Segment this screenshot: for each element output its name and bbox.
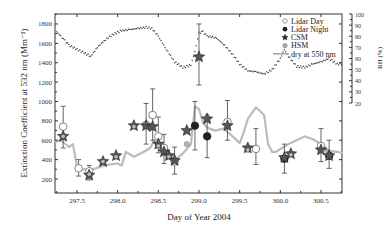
- lidar-day-marker: [149, 111, 157, 119]
- rh-point: [67, 42, 68, 43]
- rh-point: [295, 63, 296, 64]
- x-tick-label: 300.5: [313, 197, 329, 205]
- rh-point: [326, 59, 327, 60]
- rh-point: [106, 37, 107, 38]
- rh-point: [74, 47, 75, 48]
- hsm-dot: [114, 155, 118, 159]
- y-tick-label: 1400: [38, 59, 53, 67]
- rh-point: [94, 51, 95, 52]
- rh-point: [238, 61, 239, 62]
- rh-point: [208, 36, 209, 37]
- rh-point: [75, 49, 76, 50]
- rh-point: [183, 66, 184, 67]
- rh-point: [124, 30, 125, 31]
- rh-point: [284, 49, 285, 50]
- x-tick-label: 300.0: [272, 197, 288, 205]
- rh-point: [71, 45, 72, 46]
- rh-point: [156, 33, 157, 34]
- rh-point: [239, 64, 240, 65]
- hsm-dot: [323, 150, 327, 154]
- rh-point: [314, 63, 315, 64]
- rh-point: [308, 64, 309, 65]
- rh-point: [83, 53, 84, 54]
- rh-point: [337, 63, 338, 64]
- rh-point: [98, 45, 99, 46]
- rh-point: [167, 51, 168, 52]
- rh-point: [77, 48, 78, 49]
- rh-tick-label: 60: [355, 56, 361, 62]
- rh-point: [99, 44, 100, 45]
- rh-point: [162, 43, 163, 44]
- x-tick-label: 299.0: [191, 197, 207, 205]
- rh-point: [169, 54, 170, 55]
- rh-point: [324, 60, 325, 61]
- rh-point: [310, 65, 311, 66]
- rh-point: [217, 39, 218, 40]
- rh-point: [292, 60, 293, 61]
- rh-point: [318, 62, 319, 63]
- rh-point: [87, 53, 88, 54]
- x-tick-label: 297.5: [69, 197, 85, 205]
- rh-point: [215, 37, 216, 38]
- rh-tick-label: 50: [355, 67, 361, 73]
- rh-point: [185, 67, 186, 68]
- legend-label: dry at 550 nm: [291, 50, 336, 59]
- rh-point: [137, 27, 138, 28]
- rh-point: [89, 56, 90, 57]
- hsm-dot: [101, 160, 105, 164]
- rh-point: [144, 27, 145, 28]
- y-tick-label: 600: [42, 137, 53, 145]
- rh-point: [159, 38, 160, 39]
- rh-point: [131, 29, 132, 30]
- rh-point: [212, 36, 213, 37]
- rh-point: [224, 44, 225, 45]
- rh-point: [204, 34, 205, 35]
- rh-point: [221, 42, 222, 43]
- hsm-dot: [167, 155, 171, 159]
- rh-point: [56, 31, 57, 32]
- rh-point: [178, 63, 179, 64]
- rh-point: [78, 50, 79, 51]
- rh-point: [335, 63, 336, 64]
- rh-point: [121, 31, 122, 32]
- rh-point: [146, 26, 147, 27]
- rh-point: [259, 73, 260, 74]
- rh-tick-label: 70: [355, 45, 361, 51]
- rh-point: [291, 60, 292, 61]
- rh-point: [228, 50, 229, 51]
- rh-point: [223, 44, 224, 45]
- legend-csm-star-icon: [282, 34, 288, 39]
- hsm-dot: [246, 148, 250, 152]
- x-axis-label: Day of Year 2004: [167, 212, 231, 222]
- rh-point: [253, 71, 254, 72]
- rh-point: [179, 66, 180, 67]
- rh-point: [112, 34, 113, 35]
- rh-point: [158, 36, 159, 37]
- rh-point: [243, 66, 244, 67]
- rh-point: [60, 35, 61, 36]
- rh-tick-label: 90: [355, 23, 361, 29]
- rh-point: [257, 72, 258, 73]
- extinction-rh-chart: 297.5298.0298.5299.0299.5300.0300.520040…: [0, 0, 392, 229]
- rh-point: [95, 48, 96, 49]
- rh-point: [61, 38, 62, 39]
- y2-axis-label: RH (%): [376, 46, 384, 69]
- rh-point: [63, 38, 64, 39]
- rh-point: [341, 64, 342, 65]
- rh-point: [288, 56, 289, 57]
- rh-point: [194, 51, 195, 52]
- rh-point: [236, 61, 237, 62]
- rh-point: [105, 40, 106, 41]
- rh-point: [322, 61, 323, 62]
- rh-point: [219, 40, 220, 41]
- rh-point: [170, 55, 171, 56]
- rh-point: [305, 66, 306, 67]
- rh-point: [276, 64, 277, 65]
- rh-point: [140, 27, 141, 28]
- rh-point: [129, 29, 130, 30]
- y-tick-label: 200: [42, 176, 53, 184]
- rh-point: [171, 58, 172, 59]
- rh-point: [120, 30, 121, 31]
- rh-point: [163, 44, 164, 45]
- rh-tick-label: 80: [355, 34, 361, 40]
